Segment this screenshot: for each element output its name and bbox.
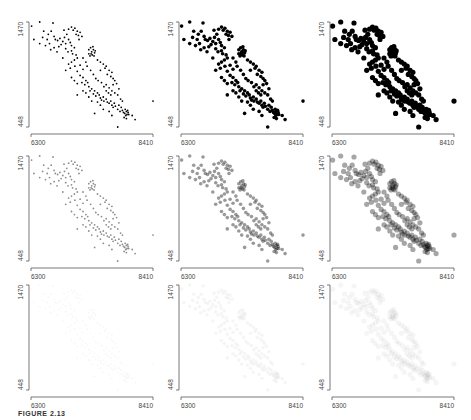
scatter-panel-r3-c2: 630084101470448 [165,277,315,409]
y-tick-max: 1470 [318,285,325,300]
x-axis [31,397,153,400]
scatter-points [31,155,154,262]
x-axis [332,268,454,271]
x-tick-max: 8410 [289,139,304,146]
y-tick-min: 448 [17,116,24,127]
y-axis [176,285,179,390]
y-tick-min: 448 [167,116,174,127]
y-tick-max: 1470 [17,285,24,300]
x-axis [181,397,303,400]
x-axis [31,268,153,271]
scatter-panel-r3-c3: 630084101470448 [316,277,466,409]
x-tick-max: 8410 [139,402,154,409]
x-tick-max: 8410 [289,402,304,409]
x-axis [181,134,303,137]
y-tick-max: 1470 [318,156,325,171]
y-axis [26,22,29,127]
x-tick-min: 6300 [332,139,347,146]
scatter-panel-r1-c1: 630084101470448 [15,14,165,146]
scatter-points [31,21,154,128]
y-tick-max: 1470 [167,156,174,171]
x-tick-min: 6300 [31,139,46,146]
y-tick-max: 1470 [318,22,325,37]
y-tick-max: 1470 [17,156,24,171]
y-axis [327,156,330,261]
x-tick-min: 6300 [31,402,46,409]
y-tick-min: 448 [17,250,24,261]
scatter-panel-r3-c1: 630084101470448 [15,277,165,409]
x-axis [332,134,454,137]
scatter-points [180,20,305,129]
scatter-panel-r2-c2: 630084101470448 [165,148,315,280]
y-axis [327,285,330,390]
y-tick-min: 448 [318,116,325,127]
y-axis [176,156,179,261]
x-tick-max: 8410 [440,139,455,146]
y-tick-max: 1470 [167,285,174,300]
y-axis [327,22,330,127]
scatter-panel-r2-c1: 630084101470448 [15,148,165,280]
scatter-points [330,153,457,263]
scatter-panel-r1-c3: 630084101470448 [316,14,466,146]
x-tick-min: 6300 [181,402,196,409]
scatter-panel-r1-c2: 630084101470448 [165,14,315,146]
y-tick-max: 1470 [17,22,24,37]
x-tick-max: 8410 [440,402,455,409]
y-axis [26,285,29,390]
x-axis [31,134,153,137]
y-tick-min: 448 [167,250,174,261]
y-tick-min: 448 [318,379,325,390]
scatter-points [330,282,457,392]
scatter-points [180,154,305,263]
figure-caption: FIGURE 2.13 [18,410,66,417]
x-tick-min: 6300 [181,139,196,146]
x-tick-min: 6300 [332,402,347,409]
y-tick-max: 1470 [167,22,174,37]
scatter-panel-r2-c3: 630084101470448 [316,148,466,280]
scatter-points [330,19,457,129]
x-axis [332,397,454,400]
y-axis [176,22,179,127]
y-tick-min: 448 [17,379,24,390]
scatter-points [31,284,154,391]
y-tick-min: 448 [167,379,174,390]
y-axis [26,156,29,261]
y-tick-min: 448 [318,250,325,261]
x-tick-max: 8410 [139,139,154,146]
scatter-points [180,283,305,392]
x-axis [181,268,303,271]
